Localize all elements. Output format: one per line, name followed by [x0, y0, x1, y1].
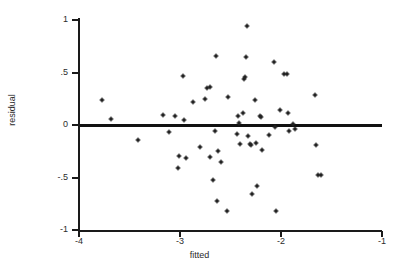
y-tick — [72, 72, 79, 74]
data-point — [167, 131, 170, 134]
data-point — [238, 143, 241, 146]
data-point — [314, 94, 317, 97]
data-point — [260, 149, 263, 152]
data-point — [274, 209, 277, 212]
x-tick-label: -2 — [268, 236, 294, 246]
data-point — [245, 24, 248, 27]
data-point — [185, 156, 188, 159]
x-axis-title: fitted — [0, 250, 399, 260]
data-point — [220, 161, 223, 164]
data-point — [320, 173, 323, 176]
data-point — [267, 133, 270, 136]
data-point — [244, 56, 247, 59]
data-point — [253, 99, 256, 102]
data-point — [241, 111, 244, 114]
data-point — [250, 192, 253, 195]
y-tick — [72, 124, 79, 126]
x-tick-label: -1 — [369, 236, 395, 246]
data-point — [192, 100, 195, 103]
data-point — [101, 99, 104, 102]
data-point — [199, 145, 202, 148]
data-point — [246, 134, 249, 137]
data-point — [255, 185, 258, 188]
x-axis-line — [78, 230, 382, 232]
data-point — [182, 75, 185, 78]
data-point — [214, 130, 217, 133]
y-tick — [72, 19, 79, 21]
x-tick-label: -3 — [167, 236, 193, 246]
data-point — [173, 115, 176, 118]
data-point — [176, 167, 179, 170]
data-point — [273, 126, 276, 129]
data-point — [243, 75, 246, 78]
data-point — [136, 139, 139, 142]
data-point — [216, 200, 219, 203]
data-point — [204, 98, 207, 101]
data-point — [227, 95, 230, 98]
y-tick-label: -1 — [44, 224, 68, 234]
y-tick-label: 0 — [44, 119, 68, 129]
data-point — [217, 149, 220, 152]
data-point — [215, 55, 218, 58]
data-point — [294, 128, 297, 131]
data-point — [288, 129, 291, 132]
data-point — [212, 178, 215, 181]
data-point — [249, 144, 252, 147]
data-point — [278, 109, 281, 112]
data-point — [292, 122, 295, 125]
data-point — [226, 209, 229, 212]
data-point — [236, 114, 239, 117]
zero-reference-line — [80, 124, 382, 127]
y-tick-label: .5 — [44, 67, 68, 77]
data-point — [177, 154, 180, 157]
data-point — [209, 86, 212, 89]
data-point — [315, 143, 318, 146]
y-axis-title: residual — [7, 80, 17, 140]
x-tick-label: -4 — [66, 236, 92, 246]
data-point — [110, 118, 113, 121]
data-point — [287, 111, 290, 114]
data-point — [183, 119, 186, 122]
data-point — [209, 155, 212, 158]
y-tick-label: -.5 — [44, 172, 68, 182]
data-point — [286, 73, 289, 76]
y-tick-label: 1 — [44, 14, 68, 24]
scatter-plot: 1.50-.5-1 -4-3-2-1 fitted residual — [0, 0, 399, 270]
data-point — [161, 114, 164, 117]
plot-area: 1.50-.5-1 -4-3-2-1 — [0, 0, 399, 270]
data-point — [272, 61, 275, 64]
data-point — [235, 132, 238, 135]
data-point — [254, 141, 257, 144]
data-point — [259, 116, 262, 119]
data-point — [237, 121, 240, 124]
y-tick — [72, 177, 79, 179]
